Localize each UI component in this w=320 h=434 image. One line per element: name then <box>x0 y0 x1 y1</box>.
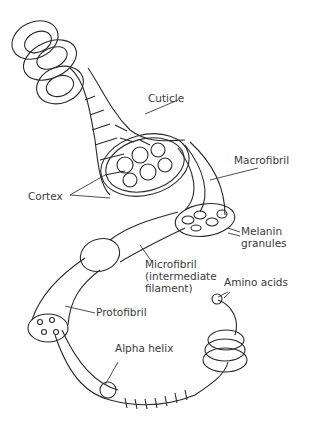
hair-structure-diagram: Cuticle Macrofibril Cortex Melanin granu… <box>0 0 320 434</box>
melanin-cross-section-icon <box>173 200 237 240</box>
label-macrofibril: Macrofibril <box>234 154 289 166</box>
label-cortex: Cortex <box>28 190 63 202</box>
hair-curl-icon <box>6 14 89 111</box>
protofibril-icon <box>28 258 100 342</box>
amino-acid-spiral-icon <box>195 294 247 395</box>
label-melanin-granules: Melanin granules <box>241 225 287 249</box>
label-protofibril: Protofibril <box>96 306 147 318</box>
label-alpha-helix: Alpha helix <box>115 342 173 354</box>
label-microfibril: Microfibril (intermediate filament) <box>145 258 217 294</box>
cuticle-shaft-icon <box>70 68 185 195</box>
label-amino-acids: Amino acids <box>224 276 288 288</box>
label-cuticle: Cuticle <box>148 92 184 104</box>
hair-structure-illustration <box>0 0 320 434</box>
